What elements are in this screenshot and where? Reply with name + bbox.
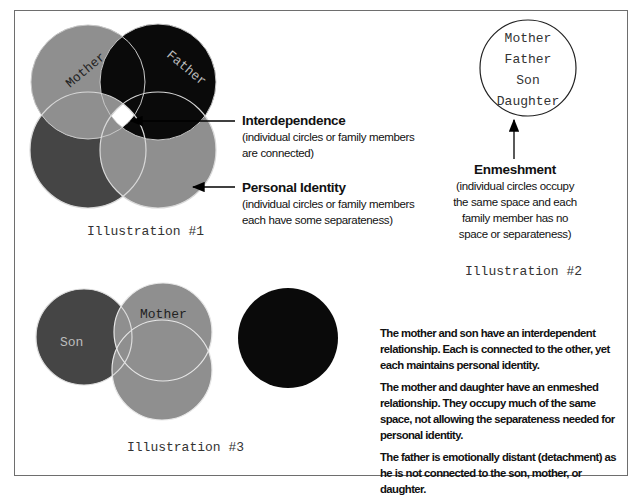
name-mother: Mother — [480, 28, 576, 49]
paragraph-mother-son: The mother and son have an interdependen… — [380, 325, 625, 373]
circle-father-ill3 — [238, 288, 338, 388]
callout-personal-identity: Personal Identity (individual circles or… — [242, 180, 414, 228]
callout-enmeshment-line-3: family member has no — [446, 210, 584, 226]
callout-enmeshment-title: Enmeshment — [446, 162, 584, 178]
callout-personal-identity-line-1: (individual circles or family members — [242, 196, 414, 212]
callout-interdependence: Interdependence (individual circles or f… — [242, 113, 414, 161]
explanation-text: The mother and son have an interdependen… — [380, 325, 625, 499]
callout-personal-identity-line-2: each have some separateness) — [242, 212, 414, 228]
name-father: Father — [480, 49, 576, 70]
callout-enmeshment-line-1: (individual circles occupy — [446, 178, 584, 194]
callout-enmeshment-line-4: space or separateness) — [446, 226, 584, 242]
label-mother-ill3: Mother — [140, 307, 187, 322]
paragraph-mother-daughter: The mother and daughter have an enmeshed… — [380, 379, 625, 443]
name-son: Son — [480, 70, 576, 91]
caption-illustration-3: Illustration #3 — [127, 440, 244, 455]
name-daughter: Daughter — [480, 91, 576, 112]
callout-enmeshment: Enmeshment (individual circles occupy th… — [446, 162, 584, 242]
caption-illustration-1: Illustration #1 — [87, 224, 204, 239]
callout-interdependence-line-1: (individual circles or family members — [242, 129, 414, 145]
callout-interdependence-line-2: are connected) — [242, 145, 414, 161]
illustration-3-venn: Son Mother — [36, 283, 338, 420]
callout-interdependence-title: Interdependence — [242, 113, 414, 129]
callout-enmeshment-line-2: the same space and each — [446, 194, 584, 210]
label-son-ill3: Son — [60, 335, 83, 350]
callout-personal-identity-title: Personal Identity — [242, 180, 414, 196]
paragraph-father: The father is emotionally distant (detac… — [380, 449, 625, 497]
enmeshed-names: Mother Father Son Daughter — [480, 28, 576, 112]
caption-illustration-2: Illustration #2 — [465, 264, 582, 279]
illustration-1-venn: Mother Father — [30, 24, 235, 208]
